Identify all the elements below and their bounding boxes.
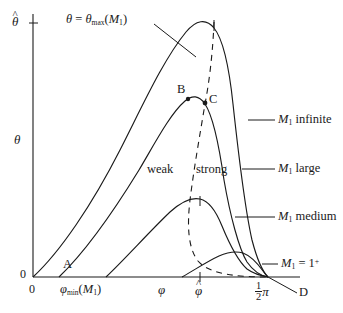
- x-axis-tick-label-phi-hat: ^φ: [195, 284, 202, 297]
- legend-item-m1-large: M1 large: [278, 162, 320, 175]
- oblique-shock-chart: ^θ θ 0 0 φmin(M1) φ ^φ 12π θ = θmax(M1) …: [0, 0, 343, 313]
- half-pi-symbol: π: [262, 284, 269, 299]
- region-label-strong: strong: [196, 163, 227, 176]
- locus-subscript-max: max: [92, 18, 105, 27]
- legend-infinite-m: M: [278, 112, 288, 126]
- legend-item-m1-infinite: M1 infinite: [278, 113, 332, 126]
- x-axis-tick-label-half-pi: 12π: [255, 281, 269, 303]
- legend-large-text: large: [295, 161, 320, 175]
- x-axis-label-phi: φ: [158, 283, 165, 296]
- leader-line-locus: [154, 24, 196, 57]
- legend-medium-m: M: [278, 209, 288, 223]
- legend-item-m1-one-plus: M1 = 1+: [281, 257, 319, 270]
- point-label-d: D: [299, 286, 308, 299]
- leader-line-d: [268, 277, 297, 293]
- curve-m1-large: [59, 97, 268, 277]
- curve-m1-medium: [106, 199, 268, 277]
- y-axis-label-theta: θ: [14, 133, 20, 146]
- x-axis-tick-label-zero: 0: [29, 283, 35, 295]
- legend-one-plus-subscript: 1: [291, 262, 295, 271]
- phi-min-arg-m: M: [83, 282, 93, 296]
- dashed-locus-theta-max: [189, 22, 268, 277]
- locus-theta-lhs: θ: [66, 12, 72, 26]
- legend-one-plus-m: M: [281, 256, 291, 270]
- point-label-c: C: [209, 93, 217, 106]
- legend-one-plus-superscript: +: [315, 257, 319, 266]
- point-label-a: A: [63, 258, 72, 271]
- legend-large-m: M: [278, 161, 288, 175]
- phi-hat-caret: ^: [196, 278, 201, 289]
- legend-infinite-subscript: 1: [288, 118, 292, 127]
- point-marker-b: [186, 97, 190, 101]
- locus-equals: =: [75, 12, 82, 26]
- phi-min-subscript: min: [67, 288, 79, 297]
- phi-min-symbol: φ: [60, 282, 67, 296]
- y-axis-tick-label-theta-hat: ^θ: [12, 15, 18, 28]
- legend-infinite-text: infinite: [295, 112, 331, 126]
- point-marker-c: [203, 101, 208, 106]
- legend-large-subscript: 1: [288, 167, 292, 176]
- x-axis-tick-label-phi-min: φmin(M1): [60, 283, 101, 296]
- annotation-theta-max-locus: θ = θmax(M1): [66, 13, 127, 26]
- legend-item-m1-medium: M1 medium: [278, 210, 336, 223]
- legend-medium-text: medium: [295, 209, 336, 223]
- phi-min-paren-close: ): [97, 282, 101, 296]
- theta-hat-caret: ^: [13, 9, 18, 20]
- legend-one-plus-equals: =: [298, 256, 305, 270]
- y-axis-tick-label-zero: 0: [20, 268, 26, 280]
- point-label-b: B: [177, 83, 185, 96]
- region-label-weak: weak: [147, 163, 173, 176]
- locus-paren-close: ): [123, 12, 127, 26]
- locus-arg-m: M: [109, 12, 119, 26]
- legend-medium-subscript: 1: [288, 215, 292, 224]
